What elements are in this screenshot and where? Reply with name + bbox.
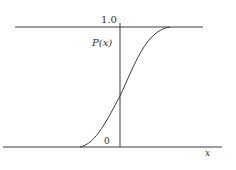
cdf-figure: 1.0 P(x) 0 x [0, 0, 236, 170]
y-axis-label: P(x) [92, 38, 112, 48]
origin-label: 0 [104, 137, 110, 146]
figure-caption [40, 161, 200, 170]
x-axis-label: x [205, 149, 210, 158]
upper-value-label: 1.0 [101, 15, 117, 25]
cdf-plot [0, 0, 236, 170]
